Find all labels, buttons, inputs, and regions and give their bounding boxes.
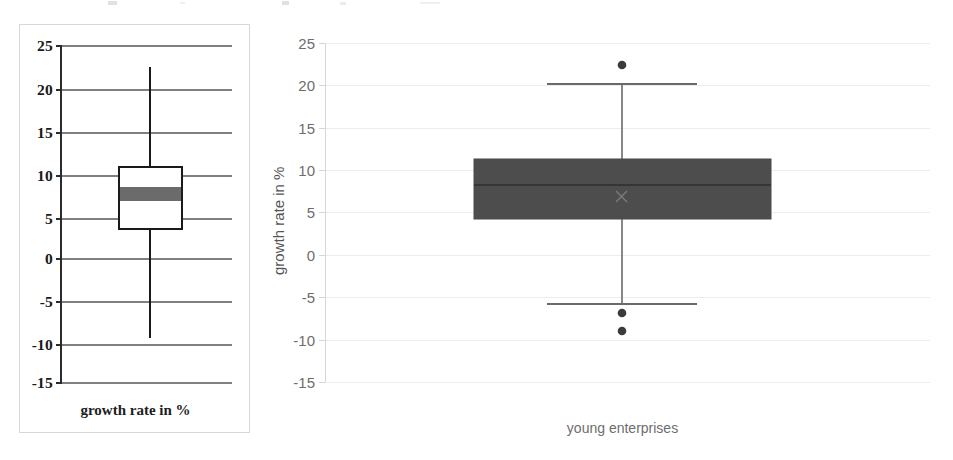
left-y-axis xyxy=(56,45,61,384)
left-ytick-minus5: -5 xyxy=(40,293,53,311)
right-box-whisker xyxy=(474,61,771,336)
outlier-22-2 xyxy=(618,61,627,70)
right-ytick-minus10: -10 xyxy=(283,332,315,349)
left-ytick-10: 10 xyxy=(37,167,53,185)
right-ytick-0: 0 xyxy=(283,247,315,264)
box-body xyxy=(474,159,771,219)
scan-smudge xyxy=(108,1,117,5)
left-ytick-5: 5 xyxy=(45,210,53,228)
scan-smudge xyxy=(420,2,440,4)
scan-smudge xyxy=(340,2,346,5)
right-ytick-5: 5 xyxy=(283,204,315,221)
right-ytick-25: 25 xyxy=(283,35,315,52)
right-ytick-20: 20 xyxy=(283,77,315,94)
right-ytick-10: 10 xyxy=(283,162,315,179)
right-x-axis-label: young enterprises xyxy=(474,420,771,436)
left-boxplot-svg xyxy=(20,25,251,434)
left-boxplot-panel: 25 20 15 10 5 0 -5 -10 -15 growth rate i… xyxy=(19,24,250,433)
left-ytick-15: 15 xyxy=(37,124,53,142)
right-boxplot-panel: 25 20 15 10 5 0 -5 -10 -15 growth rate i… xyxy=(275,10,940,450)
left-box-whisker xyxy=(119,67,182,338)
median-band xyxy=(120,187,181,201)
left-ytick-20: 20 xyxy=(37,81,53,99)
right-ytick-minus5: -5 xyxy=(283,289,315,306)
left-ytick-0: 0 xyxy=(45,250,53,268)
outlier-minus6-7 xyxy=(618,309,627,318)
scan-smudge xyxy=(180,2,185,4)
right-ytick-minus15: -15 xyxy=(283,374,315,391)
right-boxplot-svg xyxy=(275,10,940,450)
outlier-minus8-8 xyxy=(618,327,627,336)
left-ytick-25: 25 xyxy=(37,37,53,55)
right-y-axis xyxy=(319,43,325,382)
right-y-axis-label: growth rate in % xyxy=(270,167,287,275)
left-ytick-minus10: -10 xyxy=(32,336,53,354)
scan-smudge xyxy=(282,1,289,5)
right-ytick-15: 15 xyxy=(283,120,315,137)
left-x-axis-label: growth rate in % xyxy=(20,402,251,419)
left-ytick-minus15: -15 xyxy=(32,374,53,392)
